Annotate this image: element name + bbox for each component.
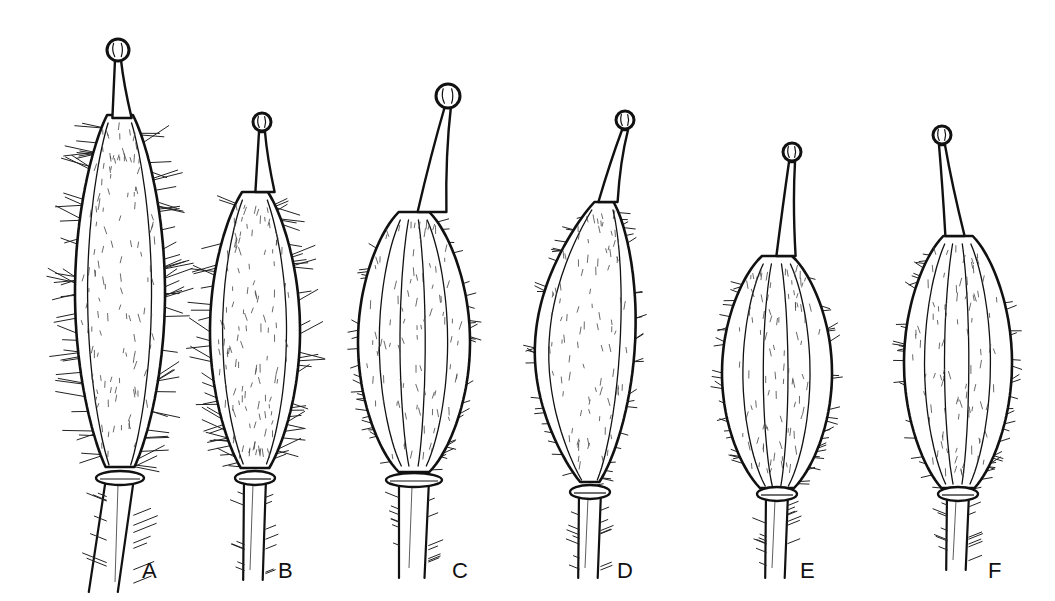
capsule-body xyxy=(722,256,832,488)
specimen-label-a: A xyxy=(142,558,157,583)
stigma xyxy=(436,84,460,108)
specimen-label-d: D xyxy=(617,558,633,583)
collar-ring xyxy=(386,473,442,487)
specimen-label-e: E xyxy=(800,558,815,583)
style xyxy=(776,162,795,256)
stigma xyxy=(616,111,634,129)
pedicel xyxy=(946,494,969,570)
capsule-b: B xyxy=(187,113,325,583)
capsule-f: F xyxy=(893,126,1022,583)
capsule-c: C xyxy=(348,84,481,583)
pedicel xyxy=(399,480,429,578)
specimen-label-f: F xyxy=(988,558,1001,583)
collar-ring xyxy=(235,471,275,485)
stigma xyxy=(783,143,801,161)
style xyxy=(598,130,628,202)
pedicel xyxy=(89,478,134,592)
collar-ring xyxy=(757,487,797,501)
style xyxy=(255,132,274,192)
capsule-a: A xyxy=(47,39,193,592)
collar-ring xyxy=(96,471,144,485)
capsule-illustration: ABCDEF xyxy=(0,0,1055,601)
style xyxy=(418,106,451,212)
specimen-label-c: C xyxy=(452,558,468,583)
style xyxy=(939,145,965,236)
capsule-body xyxy=(904,236,1012,488)
style xyxy=(112,60,131,118)
specimen-label-b: B xyxy=(278,558,293,583)
stigma xyxy=(107,39,129,61)
collar-ring xyxy=(570,485,610,499)
stigma xyxy=(933,126,951,144)
pedicel xyxy=(578,492,601,578)
pedicel xyxy=(243,478,266,580)
stigma xyxy=(253,113,271,131)
capsule-d: D xyxy=(524,111,647,583)
pedicel xyxy=(765,494,788,578)
collar-ring xyxy=(938,487,978,501)
illustration-canvas: ABCDEF xyxy=(0,0,1055,601)
capsule-e: E xyxy=(711,143,842,583)
